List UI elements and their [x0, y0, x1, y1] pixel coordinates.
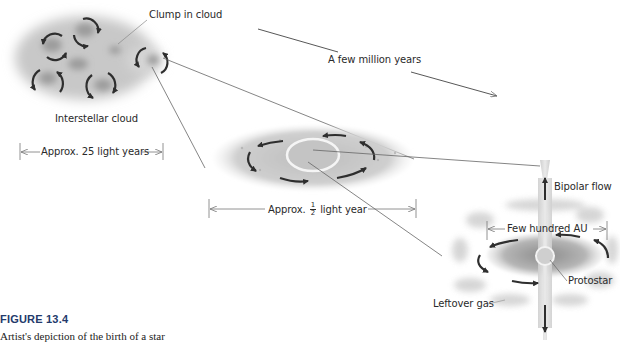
time-elapsed-label: A few million years: [328, 54, 421, 65]
bipolar-flow-label: Bipolar flow: [554, 181, 612, 192]
figure-canvas: [0, 0, 620, 342]
figure-number: FIGURE 13.4: [0, 313, 68, 325]
cloud-scale-label: Approx. 25 light years: [41, 146, 149, 157]
interstellar-cloud: [15, 16, 167, 100]
disk-scale-prefix: Approx.: [268, 204, 306, 215]
protostar-core: [536, 247, 554, 265]
leftover-gas-label: Leftover gas: [433, 298, 494, 309]
disk-scale-suffix: light year: [320, 204, 367, 215]
collapsing-disk: [211, 124, 415, 192]
interstellar-cloud-label: Interstellar cloud: [55, 113, 138, 124]
figure-caption: Artist's depiction of the birth of a sta…: [0, 330, 165, 342]
half-fraction: 12: [310, 202, 316, 217]
disk-scale-label: Approx. 12 light year: [268, 202, 367, 217]
clump-in-cloud-label: Clump in cloud: [149, 9, 222, 20]
protostar-scale-label: Few hundred AU: [507, 223, 587, 234]
protostar-label: Protostar: [568, 275, 612, 286]
